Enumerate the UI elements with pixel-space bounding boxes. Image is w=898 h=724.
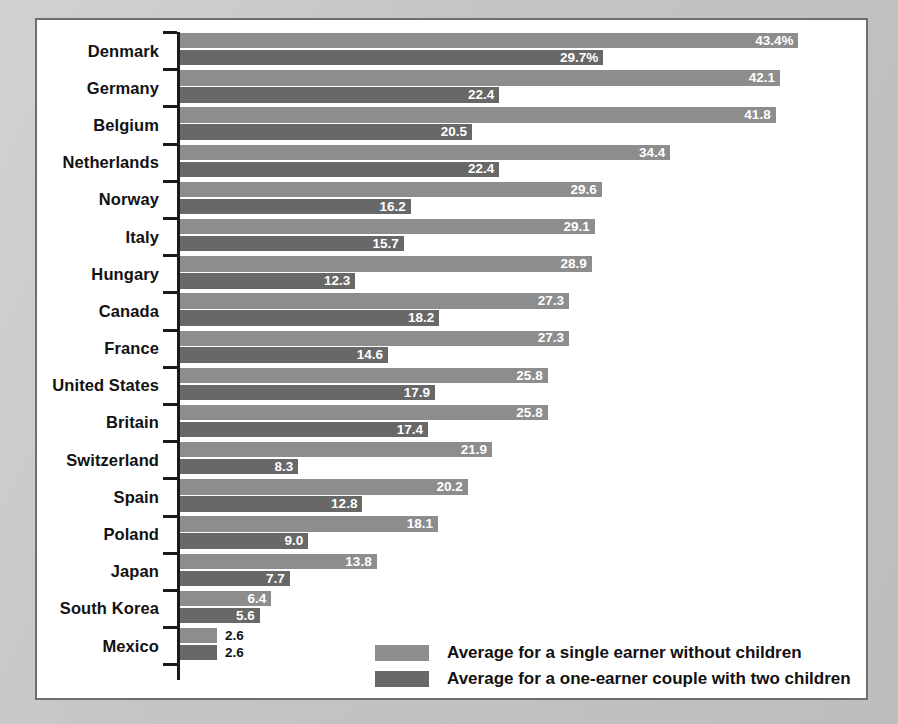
bar-value-label: 29.1	[563, 220, 594, 234]
bar-single-earner: 21.9	[180, 442, 492, 457]
legend-item-couple: Average for a one-earner couple with two…	[375, 666, 851, 692]
bar-value-label: 13.8	[345, 555, 376, 569]
bar-group: 34.422.4	[180, 145, 866, 177]
category-label: Canada	[99, 301, 159, 320]
bar-value-label: 16.2	[380, 200, 411, 214]
bar-group: 21.98.3	[180, 442, 866, 474]
bar-single-earner: 20.2	[180, 479, 468, 494]
bar-group: 13.87.7	[180, 554, 866, 586]
bar-value-label: 15.7	[372, 237, 403, 251]
bar-one-earner-couple: 16.2	[180, 199, 411, 214]
bar-row: Japan13.87.7	[37, 553, 866, 590]
category-label: Switzerland	[66, 450, 159, 469]
bar-one-earner-couple: 8.3	[180, 459, 298, 474]
bar-row: Belgium41.820.5	[37, 106, 866, 143]
category-label: Hungary	[91, 264, 159, 283]
bar-single-earner: 29.1	[180, 219, 595, 234]
bar-group: 25.817.9	[180, 368, 866, 400]
bar-value-label: 27.3	[538, 294, 569, 308]
bar-value-label: 34.4	[639, 146, 670, 160]
bar-one-earner-couple: 15.7	[180, 236, 404, 251]
bar-value-label: 27.3	[538, 331, 569, 345]
bar-group: 29.616.2	[180, 182, 866, 214]
category-label: Britain	[106, 413, 159, 432]
bar-value-label: 17.4	[397, 423, 428, 437]
bar-value-label: 12.3	[324, 274, 355, 288]
bar-row: Poland18.19.0	[37, 515, 866, 552]
category-label: Norway	[99, 190, 159, 209]
category-label: Spain	[114, 487, 159, 506]
category-label: United States	[52, 376, 159, 395]
bar-value-label: 29.7%	[560, 51, 603, 65]
bar-value-label: 18.1	[407, 517, 438, 531]
legend-swatch-single-earner	[375, 645, 429, 661]
category-label: South Korea	[60, 599, 159, 618]
category-label: Netherlands	[63, 153, 159, 172]
bar-row: Italy29.115.7	[37, 218, 866, 255]
bar-one-earner-couple: 9.0	[180, 533, 308, 548]
category-label: Japan	[111, 562, 159, 581]
bar-value-label: 25.8	[516, 369, 547, 383]
bar-value-label: 22.4	[468, 88, 499, 102]
legend-swatch-one-earner-couple	[375, 671, 429, 687]
bar-value-label: 25.8	[516, 406, 547, 420]
bar-row: Britain25.817.4	[37, 404, 866, 441]
bar-group: 25.817.4	[180, 405, 866, 437]
bar-one-earner-couple: 29.7%	[180, 50, 603, 65]
bar-value-label: 5.6	[236, 609, 260, 623]
bar-value-label: 29.6	[571, 183, 602, 197]
bar-group: 18.19.0	[180, 516, 866, 548]
legend-label-single-earner: Average for a single earner without chil…	[447, 643, 802, 663]
bar-one-earner-couple: 20.5	[180, 124, 472, 139]
legend-item-single: Average for a single earner without chil…	[375, 640, 851, 666]
category-label: Poland	[103, 525, 159, 544]
bar-group: 42.122.4	[180, 70, 866, 102]
bar-single-earner: 25.8	[180, 405, 548, 420]
category-label: Mexico	[102, 636, 159, 655]
bar-single-earner: 41.8	[180, 107, 776, 122]
bar-row: South Korea6.45.6	[37, 590, 866, 627]
bar-one-earner-couple: 18.2	[180, 310, 439, 325]
bar-one-earner-couple: 22.4	[180, 87, 499, 102]
bar-value-label: 43.4%	[755, 34, 798, 48]
bar-single-earner: 43.4%	[180, 33, 798, 48]
bar-row: Denmark43.4%29.7%	[37, 32, 866, 69]
bar-row: United States25.817.9	[37, 367, 866, 404]
bar-one-earner-couple: 22.4	[180, 162, 499, 177]
bar-row: Germany42.122.4	[37, 69, 866, 106]
category-label: Denmark	[88, 41, 159, 60]
bar-group: 6.45.6	[180, 591, 866, 623]
bar-one-earner-couple: 7.7	[180, 571, 290, 586]
bar-value-label: 2.6	[217, 646, 244, 660]
bar-one-earner-couple: 14.6	[180, 347, 388, 362]
bar-value-label: 8.3	[274, 460, 298, 474]
bar-single-earner: 42.1	[180, 70, 780, 85]
bar-value-label: 7.7	[266, 572, 290, 586]
bar-value-label: 20.5	[441, 125, 472, 139]
bar-single-earner: 34.4	[180, 145, 670, 160]
bar-single-earner: 13.8	[180, 554, 377, 569]
bar-group: 27.314.6	[180, 331, 866, 363]
bar-group: 43.4%29.7%	[180, 33, 866, 65]
bar-single-earner: 25.8	[180, 368, 548, 383]
bar-row: Spain20.212.8	[37, 478, 866, 515]
bar-row: Norway29.616.2	[37, 181, 866, 218]
category-label: Germany	[87, 78, 159, 97]
bar-value-label: 9.0	[284, 534, 308, 548]
bar-single-earner: 27.3	[180, 331, 569, 346]
bar-value-label: 21.9	[461, 443, 492, 457]
bar-row: Hungary28.912.3	[37, 255, 866, 292]
bar-one-earner-couple: 12.3	[180, 273, 355, 288]
bar-one-earner-couple: 12.8	[180, 496, 362, 511]
axis-tick	[163, 663, 177, 666]
bar-value-label: 12.8	[331, 497, 362, 511]
bar-single-earner: 6.4	[180, 591, 271, 606]
legend-label-one-earner-couple: Average for a one-earner couple with two…	[447, 669, 851, 689]
chart-panel: Denmark43.4%29.7%Germany42.122.4Belgium4…	[35, 18, 868, 700]
plot-area: Denmark43.4%29.7%Germany42.122.4Belgium4…	[37, 20, 866, 698]
bar-value-label: 28.9	[561, 257, 592, 271]
category-label: Belgium	[93, 115, 159, 134]
bar-group: 29.115.7	[180, 219, 866, 251]
bar-value-label: 42.1	[749, 71, 780, 85]
bar-single-earner: 18.1	[180, 516, 438, 531]
